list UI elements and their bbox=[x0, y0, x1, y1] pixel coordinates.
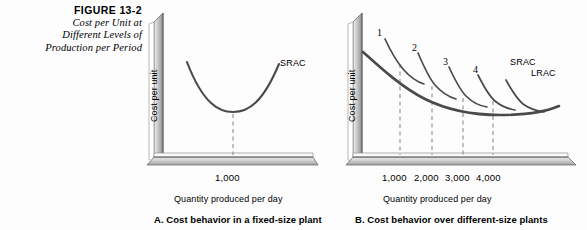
panel-b-subcaption: B. Cost behavior over different-size pla… bbox=[355, 214, 548, 225]
srac-curve-3 bbox=[449, 67, 487, 107]
panel-b-srac-label: SRAC bbox=[510, 57, 536, 67]
panel-a-subcaption: A. Cost behavior in a fixed-size plant bbox=[154, 214, 322, 225]
figure-caption-line-1: Cost per Unit at bbox=[4, 17, 142, 29]
panel-a: Cost per unit SRAC 1,000 Quantity produc… bbox=[145, 0, 320, 230]
figure-number: FIGURE 13-2 bbox=[4, 4, 142, 16]
panel-b-plant-number-4: 4 bbox=[473, 64, 478, 75]
srac-plant-curves bbox=[385, 39, 544, 112]
panel-b-xtick-2000: 2,000 bbox=[414, 172, 439, 183]
srac-curve-2 bbox=[418, 53, 456, 99]
figure-caption-line-3: Production per Period bbox=[4, 42, 142, 54]
panel-b-plant-number-2: 2 bbox=[412, 42, 417, 53]
panel-b-xtick-3000: 3,000 bbox=[445, 172, 470, 183]
panel-a-x-axis-label: Quantity produced per day bbox=[174, 194, 283, 204]
x-axis-3d-slab bbox=[346, 153, 576, 165]
figure-caption-block: FIGURE 13-2 Cost per Unit at Different L… bbox=[4, 4, 142, 54]
panel-a-y-axis-label: Cost per unit bbox=[149, 70, 159, 122]
panel-a-xtick-1000: 1,000 bbox=[215, 172, 240, 183]
srac-curve-4 bbox=[478, 75, 515, 110]
figure-caption-line-2: Different Levels of bbox=[4, 29, 142, 41]
panel-b-lrac-label: LRAC bbox=[531, 68, 556, 78]
panel-b-y-axis-label: Cost per unit bbox=[347, 70, 357, 122]
panel-a-srac-label: SRAC bbox=[280, 58, 306, 68]
panel-b-xtick-4000: 4,000 bbox=[476, 172, 501, 183]
panel-b-x-axis-label: Quantity produced per day bbox=[383, 194, 492, 204]
panel-b-plant-number-1: 1 bbox=[377, 27, 382, 38]
x-axis-3d-slab bbox=[145, 153, 318, 167]
panel-b: Cost per unit 1 2 3 4 SRAC LRAC 1,000 2,… bbox=[325, 0, 587, 230]
panel-b-plant-number-3: 3 bbox=[443, 56, 448, 67]
panel-b-xtick-1000: 1,000 bbox=[382, 172, 407, 183]
srac-curve bbox=[187, 62, 279, 112]
figure-root: FIGURE 13-2 Cost per Unit at Different L… bbox=[0, 0, 587, 230]
srac-curve-5 bbox=[506, 80, 544, 112]
